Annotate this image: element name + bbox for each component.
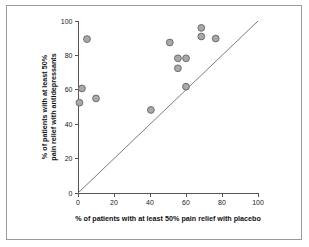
- data-point: [166, 39, 173, 46]
- x-tick-label: 0: [76, 199, 80, 206]
- y-tick-label: 60: [65, 86, 73, 93]
- data-point: [198, 24, 205, 31]
- data-point: [175, 65, 182, 72]
- line-of-identity: [78, 21, 258, 193]
- data-point: [76, 99, 83, 106]
- x-tick-label: 20: [110, 199, 118, 206]
- data-point: [84, 36, 91, 43]
- y-tick-label: 80: [65, 52, 73, 59]
- data-point: [183, 83, 190, 90]
- y-tick-label: 20: [65, 155, 73, 162]
- data-points-group: [76, 24, 219, 113]
- data-point: [148, 107, 155, 114]
- y-tick-label: 100: [61, 18, 73, 25]
- data-point: [183, 55, 190, 62]
- data-point: [212, 35, 219, 42]
- x-tick-label: 60: [182, 199, 190, 206]
- x-tick-label: 100: [252, 199, 264, 206]
- x-tick-label: 80: [218, 199, 226, 206]
- data-point: [79, 85, 86, 92]
- axis-titles-group: % of patients with at least 50% pain rel…: [40, 53, 261, 223]
- data-point: [175, 55, 182, 62]
- scatter-plot: 020406080100020406080100 % of patients w…: [0, 0, 309, 247]
- y-axis-title-line2: pain relief with antidepressants: [49, 53, 58, 160]
- x-tick-label: 40: [146, 199, 154, 206]
- x-axis-title: % of patients with at least 50% pain rel…: [75, 214, 261, 223]
- y-axis-title-line1: % of patients with at least 50%: [40, 54, 49, 159]
- line-of-identity: [78, 21, 258, 193]
- data-point: [198, 33, 205, 40]
- y-tick-label: 40: [65, 121, 73, 128]
- data-point: [93, 95, 100, 102]
- y-tick-label: 0: [69, 190, 73, 197]
